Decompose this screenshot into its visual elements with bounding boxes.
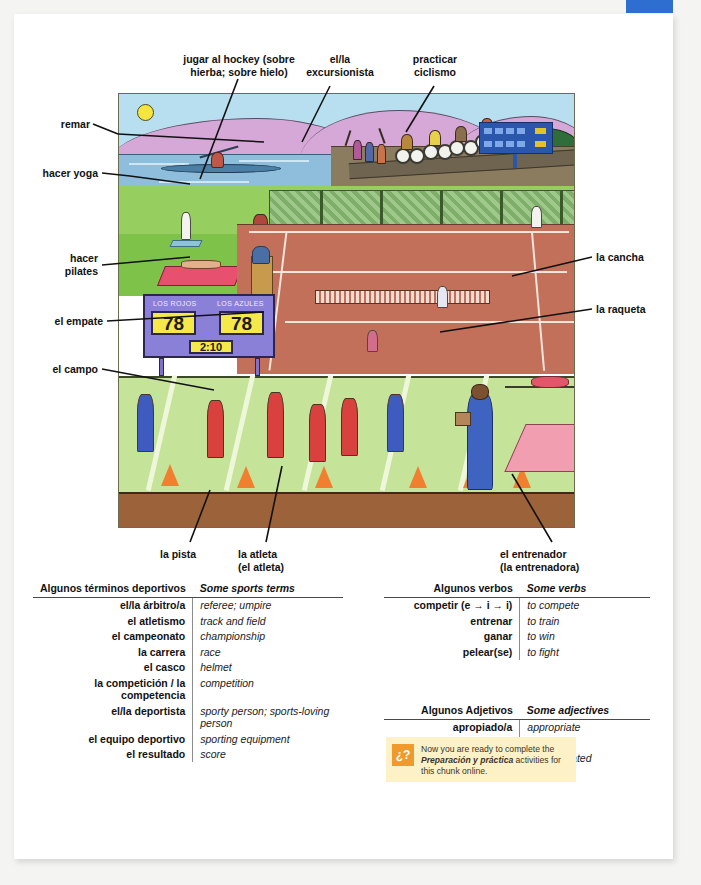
- table-header-es: Algunos términos deportivos: [33, 582, 193, 594]
- term-es: la carrera: [33, 644, 192, 660]
- table-row: el casco helmet: [33, 660, 343, 676]
- verb-en: to win: [519, 629, 650, 645]
- umpire: [252, 246, 270, 264]
- verb-es: competir (e → i → i): [384, 598, 519, 614]
- wave: [239, 160, 309, 162]
- table-verbs: Algunos verbos Some verbs competir (e → …: [384, 582, 650, 660]
- term-en: referee; umpire: [192, 598, 343, 614]
- coach-head: [471, 384, 489, 400]
- tennis-net: [315, 290, 490, 304]
- callout-la-raqueta: la raqueta: [596, 303, 646, 316]
- callout-remar: remar: [14, 118, 90, 131]
- term-es: la competición / la competencia: [33, 675, 192, 703]
- callout-practicar-ciclismo: practicar ciclismo: [396, 53, 474, 78]
- wave: [159, 181, 249, 183]
- running-track: [119, 492, 575, 528]
- traffic-cone: [315, 466, 333, 488]
- note-text-before: Now you are ready to complete the: [421, 744, 554, 754]
- term-en: championship: [192, 629, 343, 645]
- runner: [309, 404, 326, 462]
- scoreboard-leg: [255, 358, 260, 376]
- kayaker-rower: [211, 152, 224, 168]
- tennis-player: [437, 286, 448, 308]
- table-header-row: Algunos Adjetivos Some adjectives: [384, 704, 650, 720]
- clipboard: [455, 412, 471, 426]
- scoreboard: LOS ROJOS LOS AZULES 78 78 2:10: [143, 294, 275, 358]
- term-en: score: [192, 747, 343, 763]
- sports-scene-illustration: LOS ROJOS LOS AZULES 78 78 2:10: [118, 93, 575, 528]
- term-es: el atletismo: [33, 613, 192, 629]
- term-es: el/la deportista: [33, 703, 192, 731]
- sun-icon: [137, 104, 154, 121]
- verb-en: to train: [519, 613, 650, 629]
- table-row: entrenar to train: [384, 613, 650, 629]
- table-sports-terms: Algunos términos deportivos Some sports …: [33, 582, 343, 762]
- table-header-en: Some verbs: [520, 582, 650, 594]
- cyclist: [455, 126, 467, 142]
- runner-coach: [267, 392, 284, 458]
- hiker: [353, 140, 362, 160]
- coach-trainer: [467, 394, 493, 490]
- scoreboard-score-right: 78: [219, 311, 264, 335]
- table-header-row: Algunos términos deportivos Some sports …: [33, 582, 343, 598]
- callout-el-entrenador: el entrenador (la entrenadora): [500, 548, 579, 573]
- term-en: sporty person; sports-loving person: [192, 703, 343, 731]
- scoreboard-timer: 2:10: [189, 340, 233, 354]
- scoreboard-team-right: LOS AZULES: [217, 300, 264, 307]
- term-en: track and field: [192, 613, 343, 629]
- table-header-es: Algunos Adjetivos: [384, 704, 520, 716]
- pilates-mat: [157, 266, 243, 286]
- tennis-player: [531, 206, 542, 228]
- scoreboard-team-left: LOS ROJOS: [153, 300, 197, 307]
- traffic-cone: [161, 464, 179, 486]
- callout-el-empate: el empate: [14, 315, 103, 328]
- adjective-en: appropriate: [519, 720, 650, 736]
- term-es: el equipo deportivo: [33, 731, 192, 747]
- callout-hacer-pilates: hacer pilates: [14, 252, 98, 277]
- verb-es: entrenar: [384, 613, 519, 629]
- scoreboard-leg: [159, 358, 164, 376]
- runner: [207, 400, 224, 458]
- question-mark-icon: ¿?: [392, 744, 414, 766]
- table-header-en: Some adjectives: [520, 704, 650, 716]
- hiker: [365, 142, 374, 162]
- term-en: sporting equipment: [192, 731, 343, 747]
- online-practice-note: ¿? Now you are ready to complete the Pre…: [386, 737, 576, 782]
- adjective-es: apropiado/a: [384, 720, 519, 736]
- note-text-emphasis: Preparación y práctica: [421, 755, 513, 765]
- table-row: el equipo deportivo sporting equipment: [33, 731, 343, 747]
- term-es: el campeonato: [33, 629, 192, 645]
- term-en: competition: [192, 675, 343, 703]
- yoga-person: [181, 212, 191, 240]
- table-row: la carrera race: [33, 644, 343, 660]
- traffic-cone: [237, 466, 255, 488]
- callout-el-la-excursionista: el/la excursionista: [304, 53, 376, 78]
- table-row: ganar to win: [384, 629, 650, 645]
- stadium-display-board: [479, 122, 553, 154]
- pilates-person: [181, 260, 221, 269]
- high-jumper: [531, 376, 569, 388]
- table-header-en: Some sports terms: [193, 582, 343, 594]
- yoga-mat: [169, 240, 202, 247]
- cyclist: [401, 134, 413, 150]
- verb-en: to compete: [519, 598, 650, 614]
- board-support: [513, 154, 517, 168]
- term-es: el resultado: [33, 747, 192, 763]
- traffic-cone: [409, 466, 427, 488]
- top-right-tab[interactable]: [626, 0, 673, 13]
- term-en: race: [192, 644, 343, 660]
- table-row: la competición / la competencia competit…: [33, 675, 343, 703]
- table-row: el/la deportista sporty person; sports-l…: [33, 703, 343, 731]
- term-en: helmet: [192, 660, 343, 676]
- cyclist: [429, 130, 441, 146]
- runner: [137, 394, 154, 452]
- callout-la-cancha: la cancha: [596, 251, 644, 264]
- table-row: apropiado/a appropriate: [384, 720, 650, 736]
- term-es: el casco: [33, 660, 192, 676]
- scoreboard-score-left: 78: [151, 311, 196, 335]
- callout-la-atleta: la atleta (el atleta): [238, 548, 284, 573]
- table-header-es: Algunos verbos: [384, 582, 520, 594]
- callout-la-pista: la pista: [160, 548, 196, 561]
- runner: [387, 394, 404, 452]
- callout-jugar-al-hockey: jugar al hockey (sobre hierba; sobre hie…: [159, 53, 319, 78]
